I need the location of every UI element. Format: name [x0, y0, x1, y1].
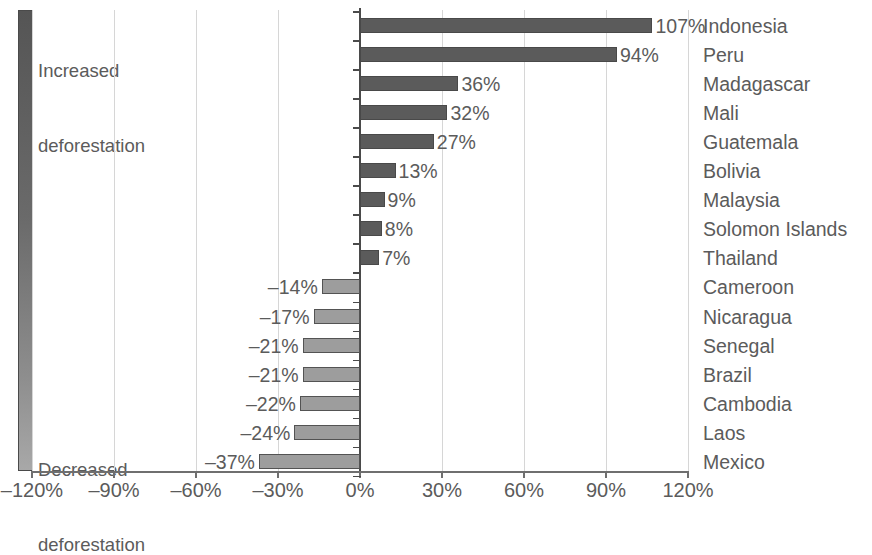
category-label-bolivia: Bolivia [703, 162, 760, 182]
bar-senegal [303, 338, 360, 353]
value-label-mexico: –37% [205, 453, 255, 473]
category-label-nicaragua: Nicaragua [703, 308, 792, 328]
gridline--90 [114, 10, 115, 471]
value-label-cambodia: –22% [246, 395, 296, 415]
y-axis-tick-5 [353, 156, 361, 158]
x-axis-label-0: 0% [346, 479, 375, 502]
gridline-120 [688, 10, 689, 471]
y-axis-tick-10 [353, 302, 361, 304]
value-label-guatemala: 27% [437, 133, 476, 153]
category-label-mali: Mali [703, 104, 739, 124]
value-label-bolivia: 13% [399, 162, 438, 182]
gridline-90 [606, 10, 607, 471]
x-axis-label--90: –90% [88, 479, 139, 502]
x-axis-tick--30 [277, 471, 279, 478]
x-axis-label--120: –120% [1, 479, 63, 502]
category-label-brazil: Brazil [703, 366, 752, 386]
x-axis-label--30: –30% [252, 479, 303, 502]
x-axis-label-60: 60% [504, 479, 544, 502]
bar-mali [360, 105, 447, 120]
value-label-nicaragua: –17% [260, 308, 310, 328]
value-label-madagascar: 36% [461, 75, 500, 95]
y-axis-tick-12 [353, 360, 361, 362]
bar-peru [360, 47, 617, 62]
value-label-brazil: –21% [249, 366, 299, 386]
category-label-madagascar: Madagascar [703, 75, 810, 95]
value-label-thailand: 7% [382, 249, 410, 269]
x-axis-tick--90 [113, 471, 115, 478]
y-axis-tick-4 [353, 127, 361, 129]
y-axis-tick-7 [353, 214, 361, 216]
category-label-cameroon: Cameroon [703, 278, 794, 298]
legend-decreased-line2: deforestation [38, 532, 145, 555]
bar-indonesia [360, 18, 652, 33]
value-label-solomon-islands: 8% [385, 220, 413, 240]
category-label-indonesia: Indonesia [703, 17, 788, 37]
y-axis-tick-2 [353, 69, 361, 71]
x-axis-label-120: 120% [662, 479, 713, 502]
gridline--120 [32, 10, 33, 471]
value-label-peru: 94% [620, 46, 659, 66]
category-label-cambodia: Cambodia [703, 395, 792, 415]
y-axis-tick-13 [353, 389, 361, 391]
x-axis-label--60: –60% [170, 479, 221, 502]
category-label-solomon-islands: Solomon Islands [703, 220, 847, 240]
bar-mexico [259, 454, 360, 469]
bar-solomon-islands [360, 221, 382, 236]
bar-nicaragua [314, 309, 360, 324]
category-label-laos: Laos [703, 424, 745, 444]
y-axis-tick-14 [353, 418, 361, 420]
y-axis-tick-9 [353, 272, 361, 274]
bar-madagascar [360, 76, 458, 91]
value-label-indonesia: 107% [655, 17, 705, 37]
bar-brazil [303, 367, 360, 382]
bar-laos [294, 425, 360, 440]
bar-guatemala [360, 134, 434, 149]
y-axis-tick-15 [353, 447, 361, 449]
y-axis-tick-8 [353, 243, 361, 245]
category-label-mexico: Mexico [703, 453, 765, 473]
category-label-peru: Peru [703, 46, 744, 66]
category-label-guatemala: Guatemala [703, 133, 798, 153]
x-axis-tick-30 [441, 471, 443, 478]
value-label-cameroon: –14% [268, 278, 318, 298]
y-axis-tick-11 [353, 331, 361, 333]
x-axis-label-90: 90% [586, 479, 626, 502]
gridline-60 [524, 10, 525, 471]
value-label-malaysia: 9% [388, 191, 416, 211]
x-axis-tick-90 [605, 471, 607, 478]
bar-thailand [360, 250, 379, 265]
category-label-malaysia: Malaysia [703, 191, 780, 211]
gridline--60 [196, 10, 197, 471]
value-label-senegal: –21% [249, 337, 299, 357]
category-label-senegal: Senegal [703, 337, 775, 357]
bar-cambodia [300, 396, 360, 411]
x-axis-tick-60 [523, 471, 525, 478]
x-axis-label-30: 30% [422, 479, 462, 502]
y-axis-tick-0 [353, 11, 361, 13]
x-axis-tick--60 [195, 471, 197, 478]
bar-cameroon [322, 279, 360, 294]
y-axis-tick-end [353, 476, 361, 478]
category-label-thailand: Thailand [703, 249, 778, 269]
value-label-laos: –24% [241, 424, 291, 444]
y-axis-tick-6 [353, 185, 361, 187]
x-axis-tick--120 [31, 471, 33, 478]
value-label-mali: 32% [450, 104, 489, 124]
x-axis-tick-120 [687, 471, 689, 478]
y-axis-tick-3 [353, 98, 361, 100]
bar-bolivia [360, 163, 396, 178]
y-axis-tick-1 [353, 40, 361, 42]
bar-malaysia [360, 192, 385, 207]
